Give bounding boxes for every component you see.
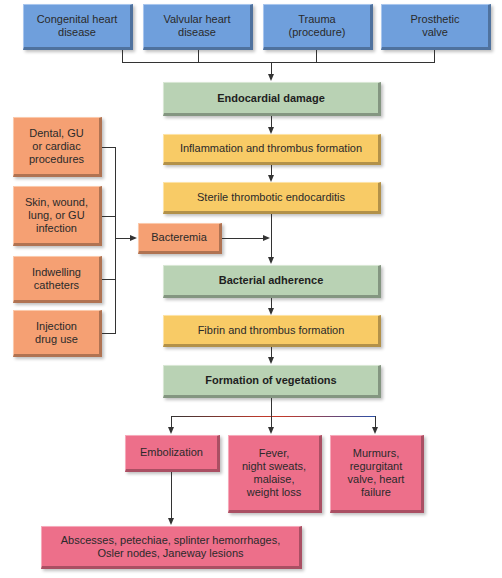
connector [102, 216, 115, 217]
risk-skin-wound-lung-gu: Skin, wound, lung, or GU infection [13, 186, 102, 246]
sterile-thrombotic-endocarditis-box: Sterile thrombotic endocarditis [163, 182, 381, 214]
arrow-down-icon [268, 74, 274, 81]
connector [171, 472, 172, 519]
connector [102, 279, 115, 280]
arrow-down-icon [268, 127, 274, 134]
connector [102, 333, 115, 334]
cause-prosthetic-valve: Prosthetic valve [381, 4, 491, 50]
arrow-down-icon [268, 357, 274, 364]
arrow-down-icon [268, 175, 274, 182]
outcome-fever-night-sweats: Fever, night sweats, malaise, weight los… [228, 435, 322, 513]
arrow-down-icon [168, 427, 174, 434]
arrow-down-icon [372, 427, 378, 434]
connector [171, 416, 375, 417]
inflammation-box: Inflammation and thrombus formation [163, 134, 381, 165]
bacterial-adherence-box: Bacterial adherence [163, 265, 381, 298]
arrow-down-icon [268, 257, 274, 264]
cause-valvular-heart-disease: Valvular heart disease [143, 4, 253, 50]
outcome-murmurs-heart-failure: Murmurs, regurgitant valve, heart failur… [330, 435, 424, 513]
connector [222, 238, 264, 239]
endocardial-damage-box: Endocardial damage [163, 82, 381, 116]
embolization-result-box: Abscesses, petechiae, splinter hemorrhag… [41, 526, 302, 569]
arrow-right-icon [263, 235, 270, 241]
connector [115, 238, 131, 239]
connector [115, 147, 116, 334]
arrow-down-icon [268, 427, 274, 434]
cause-trauma: Trauma (procedure) [263, 4, 373, 50]
formation-of-vegetations-box: Formation of vegetations [163, 365, 381, 398]
risk-dental-gu-cardiac: Dental, GU or cardiac procedures [13, 117, 102, 177]
outcome-embolization: Embolization [125, 435, 220, 472]
arrow-down-icon [268, 308, 274, 315]
risk-indwelling-catheters: Indwelling catheters [13, 256, 102, 303]
arrow-down-icon [168, 518, 174, 525]
risk-injection-drug-use: Injection drug use [13, 310, 102, 357]
connector [271, 214, 272, 258]
cause-congenital-heart-disease: Congenital heart disease [23, 4, 133, 50]
bacteremia-box: Bacteremia [138, 223, 222, 254]
connector [102, 147, 115, 148]
arrow-right-icon [130, 235, 137, 241]
connector [122, 62, 435, 63]
connector [271, 398, 272, 416]
fibrin-thrombus-box: Fibrin and thrombus formation [163, 315, 381, 347]
